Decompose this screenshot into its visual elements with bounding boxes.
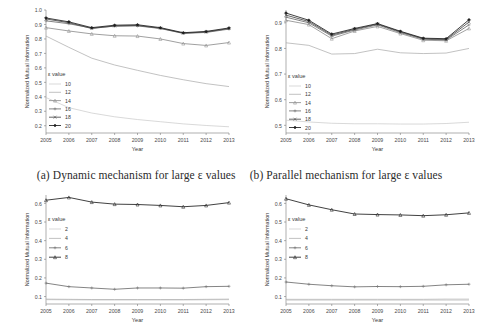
x-tick-label: 2010: [395, 137, 407, 143]
y-axis-title: Normalized Mutual Information: [264, 213, 270, 286]
y-tick-label: 0.1: [35, 294, 42, 300]
marker-plus: [159, 286, 162, 289]
series-line-14: [46, 28, 229, 46]
marker-plus: [399, 285, 402, 288]
x-tick-label: 2013: [223, 137, 235, 143]
legend-label-20: 20: [305, 125, 311, 131]
x-tick-label: 2012: [200, 308, 212, 314]
x-tick-label: 2006: [303, 308, 315, 314]
data-point-marker: [113, 288, 116, 291]
legend-label-12: 12: [305, 91, 311, 97]
marker-plus: [353, 285, 356, 288]
y-tick-label: 0.9: [35, 22, 42, 28]
marker-plus: [113, 288, 116, 291]
y-axis-title: Normalized Mutual Information: [24, 213, 30, 286]
x-tick-label: 2005: [280, 137, 292, 143]
legend-label-16: 16: [65, 106, 71, 112]
data-point-marker: [330, 284, 333, 287]
series-line-10: [286, 120, 469, 124]
marker-plus: [67, 285, 70, 288]
legend-label-8: 8: [305, 254, 308, 260]
data-point-marker: [294, 126, 297, 129]
x-tick-label: 2009: [132, 308, 144, 314]
data-point-marker: [228, 201, 231, 204]
chart-panel-c: 0.10.20.30.40.50.62005200620072008200920…: [0, 185, 239, 334]
y-tick-label: 0.2: [35, 123, 42, 129]
y-tick-label: 0.9: [275, 20, 282, 26]
x-axis-title: Year: [372, 146, 383, 152]
y-tick-label: 0.3: [35, 108, 42, 114]
data-point-marker: [376, 285, 379, 288]
y-tick-label: 0.4: [35, 238, 42, 244]
legend-label-4: 4: [65, 235, 68, 241]
legend-label-2: 2: [305, 226, 308, 232]
marker-plus: [285, 281, 288, 284]
x-tick-label: 2009: [132, 137, 144, 143]
legend-label-18: 18: [305, 116, 311, 122]
x-tick-label: 2005: [280, 308, 292, 314]
x-tick-label: 2006: [303, 137, 315, 143]
x-tick-label: 2012: [200, 137, 212, 143]
marker-triangle: [228, 201, 231, 204]
marker-plus: [294, 109, 297, 112]
data-point-marker: [45, 282, 48, 285]
marker-plus: [294, 246, 297, 249]
marker-plus: [228, 285, 231, 288]
marker-plus: [307, 283, 310, 286]
data-point-marker: [54, 107, 57, 110]
marker-plus: [182, 287, 185, 290]
y-tick-label: 0.4: [275, 238, 282, 244]
legend-label-6: 6: [65, 245, 68, 251]
x-tick-label: 2006: [63, 137, 75, 143]
x-tick-label: 2011: [178, 308, 189, 314]
marker-plus: [468, 283, 471, 286]
marker-triangle: [468, 211, 471, 214]
x-tick-label: 2008: [349, 308, 361, 314]
caption-row: (a) Dynamic mechanism for large ε values…: [0, 165, 479, 185]
marker-plus: [422, 285, 425, 288]
marker-plus: [54, 246, 57, 249]
legend-label-10: 10: [305, 83, 311, 89]
data-point-marker: [54, 124, 57, 127]
series-line-12: [286, 43, 469, 54]
legend-label-14: 14: [305, 100, 311, 106]
marker-plus: [205, 285, 208, 288]
data-point-marker: [399, 285, 402, 288]
data-point-marker: [353, 285, 356, 288]
y-tick-label: 0.2: [275, 275, 282, 281]
marker-plus: [45, 282, 48, 285]
y-tick-label: 0.5: [35, 80, 42, 86]
x-tick-label: 2009: [372, 137, 384, 143]
x-tick-label: 2013: [223, 308, 235, 314]
x-tick-label: 2007: [86, 308, 98, 314]
x-tick-label: 2011: [418, 308, 429, 314]
data-point-marker: [294, 246, 297, 249]
data-point-marker: [159, 286, 162, 289]
data-point-marker: [468, 283, 471, 286]
legend-label-4: 4: [305, 235, 308, 241]
legend-panel-b: ε value101214161820: [288, 73, 311, 131]
y-tick-label: 0.1: [275, 294, 282, 300]
x-tick-label: 2011: [418, 137, 429, 143]
legend-title: ε value: [288, 216, 305, 222]
marker-plus: [54, 107, 57, 110]
chart-panel-d: 0.10.20.30.40.50.62005200620072008200920…: [240, 185, 479, 334]
y-tick-label: 0.8: [35, 36, 42, 42]
legend-label-10: 10: [65, 81, 71, 87]
data-point-marker: [182, 287, 185, 290]
line-chart-b: 0.50.60.70.80.92005200620072008200920102…: [240, 0, 479, 165]
legend-title: ε value: [288, 73, 305, 79]
y-tick-label: 0.2: [35, 275, 42, 281]
plot-area-c: 0.10.20.30.40.50.62005200620072008200920…: [0, 185, 239, 334]
data-point-marker: [90, 286, 93, 289]
marker-diamond: [54, 124, 57, 127]
line-chart-c: 0.10.20.30.40.50.62005200620072008200920…: [0, 185, 239, 334]
data-point-marker: [422, 285, 425, 288]
line-chart-a: 0.20.30.40.50.60.70.80.91.02005200620072…: [0, 0, 239, 165]
series-line-10: [46, 98, 229, 127]
legend-label-12: 12: [65, 89, 71, 95]
x-tick-label: 2007: [326, 137, 338, 143]
x-tick-label: 2010: [155, 137, 167, 143]
x-tick-label: 2007: [86, 137, 98, 143]
x-axis-title: Year: [372, 317, 383, 323]
